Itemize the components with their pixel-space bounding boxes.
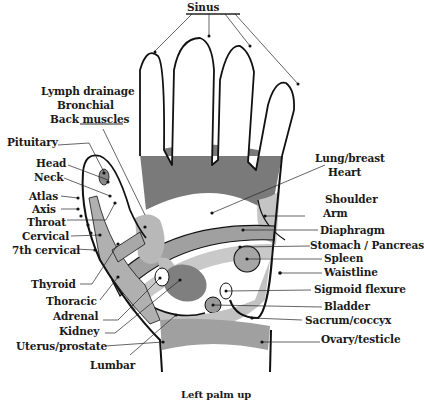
label-sigmoid-flexure: Sigmoid flexure — [314, 284, 406, 295]
label-head: Head — [36, 158, 66, 169]
label-lymph-drainage: Lymph drainage — [41, 86, 135, 97]
label-diaphragm: Diaphragm — [320, 225, 385, 236]
label-heart: Heart — [328, 167, 361, 178]
label-cervical: Cervical — [22, 231, 69, 242]
label-spleen: Spleen — [324, 253, 363, 264]
label-lung-breast: Lung/breast — [315, 153, 385, 164]
label-bladder: Bladder — [324, 301, 370, 312]
label-back-muscles: Back muscles — [50, 114, 129, 125]
ovary-testicle-zone — [160, 319, 270, 350]
label-ovary-testicle: Ovary/testicle — [321, 334, 400, 345]
label-shoulder: Shoulder — [325, 194, 378, 205]
label-7th-cervical: 7th cervical — [12, 245, 80, 256]
label-sinus: Sinus — [187, 2, 219, 13]
label-thyroid: Thyroid — [31, 279, 76, 290]
label-arm: Arm — [323, 208, 348, 219]
label-thoracic: Thoracic — [46, 296, 97, 307]
label-kidney: Kidney — [59, 326, 99, 337]
label-neck: Neck — [34, 172, 64, 183]
label-waistline: Waistline — [324, 267, 378, 278]
label-pituitary: Pituitary — [7, 137, 58, 148]
label-stomach-pancreas: Stomach / Pancreas — [310, 240, 424, 251]
label-bronchial: Bronchial — [57, 100, 114, 111]
label-uterus-prostate: Uterus/prostate — [16, 341, 107, 352]
label-atlas: Atlas — [29, 191, 58, 202]
label-throat: Throat — [27, 217, 66, 228]
label-axis: Axis — [32, 204, 56, 215]
label-lumbar: Lumbar — [90, 360, 135, 371]
diagram-caption: Left palm up — [181, 390, 251, 400]
label-sacrum-coccyx: Sacrum/coccyx — [305, 315, 391, 326]
label-adrenal: Adrenal — [53, 311, 98, 322]
